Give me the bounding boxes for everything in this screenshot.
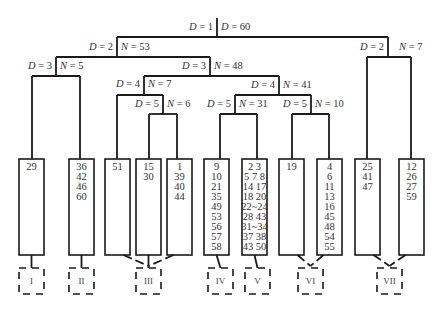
group-label: VI — [306, 276, 316, 286]
leaf-box — [279, 159, 304, 255]
leaf-value: 47 — [362, 181, 373, 192]
leaf-value: 43 50 — [243, 241, 267, 252]
leaf-value: 30 — [143, 171, 154, 182]
group-connector — [124, 255, 149, 266]
node-label-left: D = 2 — [359, 41, 384, 52]
node-label-right: N = 41 — [282, 79, 312, 90]
leaf-value: 29 — [26, 161, 37, 172]
group-connector — [298, 255, 311, 266]
leaf-value: 19 — [286, 161, 297, 172]
node-label-right: N = 5 — [59, 60, 83, 71]
node-label-left: D = 5 — [206, 98, 231, 109]
leaf-box — [19, 159, 44, 255]
node-label-right: N = 31 — [238, 98, 268, 109]
node-label-right: N = 7 — [147, 78, 171, 89]
node-label-left: D = 5 — [282, 98, 307, 109]
group-label: IV — [216, 276, 226, 286]
leaf-box — [105, 159, 130, 255]
group-label: V — [254, 276, 261, 286]
group-label: II — [79, 276, 85, 286]
group-connector — [390, 255, 406, 266]
node-label-left: D = 5 — [134, 98, 159, 109]
group-connector — [217, 255, 221, 268]
node-label-right: N = 7 — [398, 41, 422, 52]
leaf-value: 60 — [76, 191, 87, 202]
node-label-left: D = 4 — [250, 79, 276, 90]
group-connector — [311, 255, 324, 266]
node-label-right: N = 10 — [314, 98, 344, 109]
group-label: VII — [383, 276, 396, 286]
node-label-left: D = 1 — [188, 21, 213, 32]
node-label-left: D = 3 — [27, 60, 52, 71]
cluster-dendrogram: D = 1D = 60D = 2N = 53D = 2N = 7D = 3N =… — [0, 0, 440, 310]
node-label-right: N = 53 — [120, 41, 150, 52]
group-connector — [149, 255, 174, 266]
leaf-value: 51 — [112, 161, 123, 172]
leaf-value: 59 — [406, 191, 417, 202]
leaf-value: 44 — [174, 191, 185, 202]
node-label-left: D = 3 — [181, 60, 206, 71]
node-label-right: D = 60 — [220, 21, 250, 32]
group-connector — [374, 255, 390, 266]
node-label-right: N = 48 — [213, 60, 243, 71]
node-label-right: N = 6 — [166, 98, 190, 109]
group-label: I — [30, 276, 33, 286]
node-label-left: D = 4 — [115, 78, 141, 89]
node-label-left: D = 2 — [88, 41, 113, 52]
group-connector — [255, 255, 258, 268]
leaf-value: 58 — [211, 241, 222, 252]
group-label: III — [144, 276, 153, 286]
leaf-value: 55 — [324, 241, 335, 252]
